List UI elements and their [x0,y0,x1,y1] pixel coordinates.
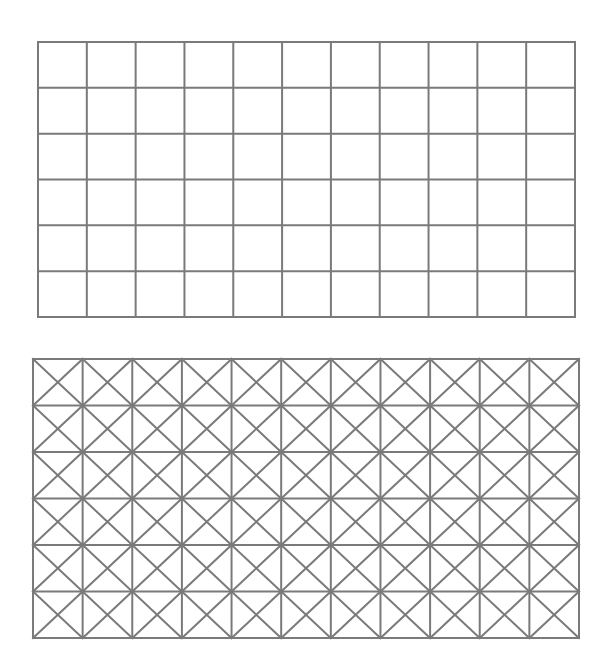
grid-diagram [0,0,608,669]
plain-grid [38,42,575,317]
cross-braced-grid [33,359,579,638]
diagram-canvas [0,0,608,669]
